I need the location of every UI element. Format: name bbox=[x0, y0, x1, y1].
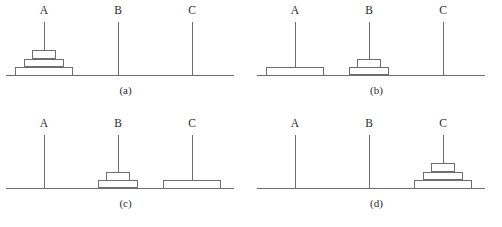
panel-caption: (b) bbox=[251, 84, 502, 97]
peg-base-line bbox=[6, 188, 84, 189]
disk-medium bbox=[349, 67, 389, 75]
panel-b: A B C (b) bbox=[251, 0, 502, 113]
peg-rod bbox=[369, 135, 370, 189]
panel-c: A B C (c) bbox=[0, 113, 251, 226]
peg-base-line bbox=[80, 188, 158, 189]
peg-rod bbox=[44, 135, 45, 189]
disk-medium bbox=[24, 59, 64, 67]
disk-medium bbox=[423, 172, 463, 180]
peg-base-line bbox=[257, 188, 335, 189]
disk-large bbox=[15, 67, 73, 76]
peg-base-line bbox=[405, 75, 485, 76]
peg-rod bbox=[118, 22, 119, 76]
disk-small bbox=[32, 50, 56, 59]
peg-rod bbox=[295, 135, 296, 189]
peg-rod bbox=[192, 22, 193, 76]
panel-caption: (a) bbox=[0, 84, 251, 97]
peg-rod bbox=[443, 22, 444, 76]
peg-base-line bbox=[154, 75, 234, 76]
disk-small bbox=[431, 163, 455, 172]
disk-large bbox=[163, 180, 221, 189]
disk-large bbox=[414, 180, 472, 189]
peg-base-line bbox=[331, 75, 409, 76]
peg-base-line bbox=[331, 188, 409, 189]
panel-d: A B C (d) bbox=[251, 113, 502, 226]
disk-small bbox=[106, 172, 130, 181]
disk-medium bbox=[98, 180, 138, 188]
disk-large bbox=[266, 67, 324, 76]
tower-of-hanoi-figure: A B C (a) A B bbox=[0, 0, 502, 227]
panel-caption: (d) bbox=[251, 197, 502, 210]
peg-base-line bbox=[80, 75, 158, 76]
panel-caption: (c) bbox=[0, 197, 251, 210]
panel-a: A B C (a) bbox=[0, 0, 251, 113]
disk-small bbox=[357, 59, 381, 68]
